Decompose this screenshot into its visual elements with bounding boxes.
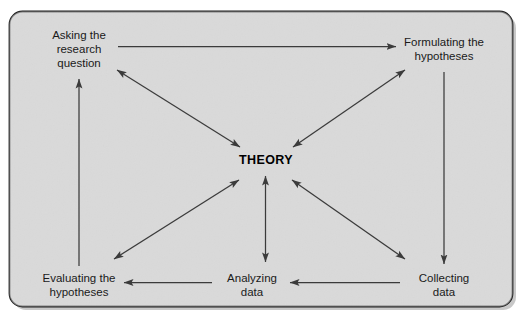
diagram-canvas: Asking the research question Formulating…: [0, 0, 526, 326]
node-asking-line2: research: [57, 43, 102, 55]
node-collecting-line2: data: [433, 286, 456, 298]
node-analyzing-line2: data: [241, 286, 264, 298]
node-asking-line3: question: [57, 57, 100, 69]
node-formulating-line2: hypotheses: [415, 50, 474, 62]
node-collecting-line1: Collecting: [419, 272, 470, 284]
node-evaluating-line2: hypotheses: [50, 286, 109, 298]
center-node-theory: THEORY: [239, 153, 293, 167]
node-analyzing-line1: Analyzing: [227, 272, 277, 284]
node-evaluating-line1: Evaluating the: [43, 272, 116, 284]
research-cycle-figure: Asking the research question Formulating…: [0, 0, 526, 326]
node-formulating-line1: Formulating the: [404, 36, 484, 48]
node-asking-line1: Asking the: [52, 29, 106, 41]
node-asking-research-question: Asking the research question: [52, 29, 106, 69]
